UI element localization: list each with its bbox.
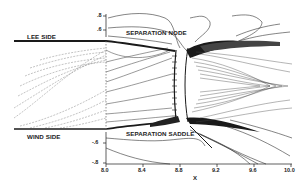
x-tick-label: 8.4 [138, 168, 146, 174]
axes [103, 14, 292, 167]
x-tick-label: 10.0 [284, 168, 295, 174]
y-tick-label: .8 [97, 13, 102, 19]
x-axis-title: X [193, 175, 197, 181]
separation-saddle-label: SEPARATION SADDLE [126, 131, 195, 137]
y-tick-label: -.8 [92, 160, 98, 166]
y-tick-label: -.6 [92, 140, 98, 146]
right-contour-field [192, 52, 292, 122]
separation-node-label: SEPARATION NODE [126, 30, 187, 36]
streamline-plot [0, 0, 297, 184]
x-tick-label: 9.6 [249, 168, 257, 174]
x-tick-label: 8.0 [101, 168, 109, 174]
flow-separation-figure: LEE SIDE WIND SIDE SEPARATION NODE SEPAR… [0, 0, 297, 184]
x-tick-label: 8.8 [175, 168, 183, 174]
y-tick-label: .6 [97, 27, 102, 33]
lee-side-label: LEE SIDE [27, 34, 56, 40]
wind-side-label: WIND SIDE [27, 134, 61, 140]
x-tick-label: 9.2 [212, 168, 220, 174]
left-streamlines [14, 48, 106, 128]
mid-streamlines [106, 48, 172, 122]
lower-contours [106, 120, 292, 164]
